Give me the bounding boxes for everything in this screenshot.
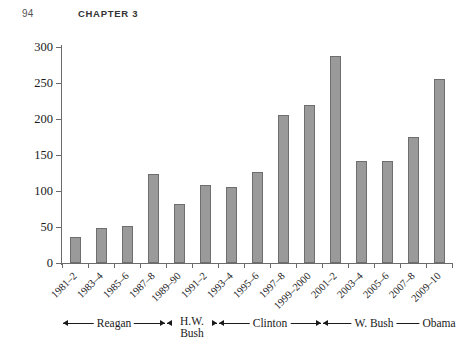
x-axis-tick: [192, 263, 193, 268]
y-axis-tick: [56, 227, 62, 228]
arrow-right-icon: [160, 320, 165, 326]
bar: [434, 79, 445, 263]
bar: [148, 174, 159, 263]
bar: [70, 237, 81, 263]
bar: [382, 161, 393, 263]
y-axis-tick-label: 250: [34, 77, 53, 90]
bar: [252, 172, 263, 263]
president-bracket: Reagan: [63, 316, 165, 339]
president-label: Reagan: [94, 316, 134, 330]
plot-area: 050100150200250300: [62, 47, 452, 263]
bar: [330, 56, 341, 263]
x-axis-tick: [62, 263, 63, 268]
x-axis-tick: [374, 263, 375, 268]
figure-bar-chart: 94 CHAPTER 3 050100150200250300 1981–219…: [0, 0, 470, 339]
y-axis-tick: [56, 155, 62, 156]
x-axis-tick: [244, 263, 245, 268]
bar: [226, 187, 237, 263]
y-axis-tick: [56, 47, 62, 48]
y-axis-tick-label: 150: [34, 149, 53, 162]
arrow-right-icon: [316, 320, 321, 326]
x-axis-tick: [400, 263, 401, 268]
running-head: 94 CHAPTER 3: [0, 8, 470, 24]
arrow-left-icon: [63, 320, 68, 326]
bar: [174, 204, 185, 263]
y-axis-tick-label: 300: [34, 41, 53, 54]
page-number: 94: [22, 8, 34, 19]
y-axis-tick-label: 0: [47, 257, 53, 270]
president-label: H.W. Bush: [172, 316, 212, 339]
arrow-right-icon: [212, 320, 217, 326]
x-axis-line: [61, 263, 453, 264]
president-bracket: Clinton: [219, 316, 321, 339]
president-bracket: W. Bush: [323, 316, 425, 339]
x-axis-tick: [114, 263, 115, 268]
arrow-left-icon: [323, 320, 328, 326]
president-label: W. Bush: [351, 316, 396, 330]
bar: [356, 161, 367, 263]
x-axis-tick: [88, 263, 89, 268]
x-axis-tick: [140, 263, 141, 268]
bar: [96, 228, 107, 263]
arrow-left-icon: [219, 320, 224, 326]
y-axis-tick: [56, 119, 62, 120]
x-axis-tick: [348, 263, 349, 268]
y-axis-tick: [56, 191, 62, 192]
president-label: Clinton: [250, 316, 291, 330]
president-bracket-row: ReaganH.W. BushClintonW. BushObama: [0, 316, 470, 339]
president-bracket: Obama: [427, 316, 451, 339]
y-axis-tick-label: 50: [41, 221, 54, 234]
y-axis-tick: [56, 83, 62, 84]
chapter-title: CHAPTER 3: [78, 8, 138, 19]
bar: [278, 115, 289, 263]
x-axis-tick: [270, 263, 271, 268]
x-axis-tick: [452, 263, 453, 268]
x-axis-tick: [426, 263, 427, 268]
x-axis-tick: [296, 263, 297, 268]
y-axis-tick-label: 100: [34, 185, 53, 198]
y-axis-tick-label: 200: [34, 113, 53, 126]
x-axis-tick: [322, 263, 323, 268]
bar: [122, 226, 133, 263]
x-axis-tick: [218, 263, 219, 268]
bar: [408, 137, 419, 263]
bar: [304, 105, 315, 263]
president-bracket: H.W. Bush: [167, 316, 217, 339]
president-label: Obama: [419, 316, 458, 330]
x-axis-tick: [166, 263, 167, 268]
bar: [200, 185, 211, 263]
